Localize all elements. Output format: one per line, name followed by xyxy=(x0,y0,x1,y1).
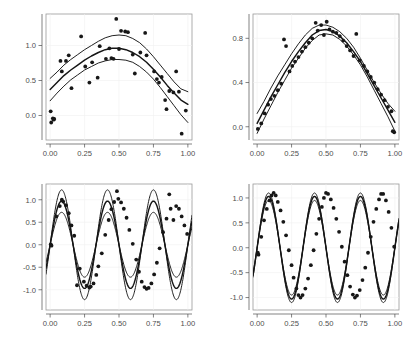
data-point xyxy=(317,217,321,221)
data-point xyxy=(322,33,326,37)
data-point xyxy=(372,81,376,85)
data-point xyxy=(67,211,71,215)
data-point xyxy=(345,44,349,48)
data-point xyxy=(268,199,272,203)
data-point xyxy=(284,233,288,237)
data-point xyxy=(358,288,362,292)
data-point xyxy=(265,207,269,211)
data-point xyxy=(147,286,151,290)
data-point xyxy=(64,203,68,207)
data-point xyxy=(392,130,396,134)
panel-top-right-y-tick-label: 0.8 xyxy=(232,34,243,43)
data-point xyxy=(126,30,130,34)
panel-top-right-svg: 0.000.250.500.751.000.00.40.8 xyxy=(207,2,415,170)
data-point xyxy=(96,76,100,80)
data-point xyxy=(145,53,149,57)
data-point xyxy=(263,112,267,116)
data-point xyxy=(374,207,378,211)
data-point xyxy=(67,53,71,57)
data-point xyxy=(309,263,313,267)
data-point xyxy=(172,91,176,95)
data-point xyxy=(369,75,373,79)
data-point xyxy=(61,200,65,204)
data-point xyxy=(279,209,283,213)
data-point xyxy=(282,38,286,42)
data-point xyxy=(274,194,278,198)
data-point xyxy=(167,192,171,196)
data-point xyxy=(355,294,359,298)
data-point xyxy=(331,30,335,34)
panel-top-left-y-tick-label: 1.0 xyxy=(25,41,36,50)
data-point xyxy=(288,70,292,74)
data-point xyxy=(259,235,263,239)
data-point xyxy=(303,287,307,291)
panel-bottom-right-x-tick-label: 0.50 xyxy=(319,319,334,328)
panel-top-left: 0.000.250.500.751.000.00.51.0 xyxy=(0,2,208,170)
data-point xyxy=(174,70,178,74)
data-point xyxy=(297,55,301,59)
panel-top-left-svg: 0.000.250.500.751.000.00.51.0 xyxy=(0,2,208,170)
data-point xyxy=(96,264,100,268)
panel-top-right-x-tick-label: 0.75 xyxy=(353,149,368,158)
data-point xyxy=(70,86,74,90)
data-point xyxy=(366,251,370,255)
panel-top-left-y-tick-label: 0.0 xyxy=(25,111,36,120)
data-point xyxy=(338,34,342,38)
data-point xyxy=(387,210,391,214)
data-point xyxy=(183,224,187,228)
data-point xyxy=(310,36,314,40)
data-point xyxy=(300,50,304,54)
data-point xyxy=(365,70,369,74)
data-point xyxy=(276,88,280,92)
data-point xyxy=(152,273,156,277)
data-point xyxy=(70,224,74,228)
data-point xyxy=(293,60,297,64)
data-point xyxy=(319,23,323,27)
data-point xyxy=(114,17,118,21)
data-point xyxy=(131,53,135,57)
panel-bottom-left-x-tick-label: 0.25 xyxy=(77,319,92,328)
data-point xyxy=(376,87,380,91)
data-point xyxy=(379,93,383,97)
data-point xyxy=(87,81,91,85)
data-point xyxy=(172,218,176,222)
data-point xyxy=(262,218,266,222)
data-point xyxy=(341,39,345,43)
panel-top-left-x-axis: 0.000.250.500.751.00 xyxy=(43,144,196,158)
panel-top-left-x-tick-label: 0.75 xyxy=(146,149,161,158)
data-point xyxy=(340,245,344,249)
data-point xyxy=(116,197,120,201)
data-point xyxy=(161,230,165,234)
data-point xyxy=(284,44,288,48)
data-point xyxy=(58,204,62,208)
data-point xyxy=(320,205,324,209)
panel-bottom-left-y-tick-label: -0.5 xyxy=(23,263,36,272)
data-point xyxy=(134,258,138,262)
data-point xyxy=(125,216,129,220)
panel-top-left-x-tick-label: 1.00 xyxy=(180,149,195,158)
data-point xyxy=(103,233,107,237)
panel-bottom-left-x-tick-label: 1.00 xyxy=(180,319,195,328)
data-point xyxy=(303,45,307,49)
data-point xyxy=(266,103,270,107)
panel-top-right-y-tick-label: 0.0 xyxy=(232,123,243,132)
data-point xyxy=(301,293,305,297)
data-point xyxy=(377,198,381,202)
data-point xyxy=(165,107,169,111)
panel-bottom-right-x-tick-label: 0.25 xyxy=(284,319,299,328)
panel-top-left-x-tick-label: 0.00 xyxy=(43,149,58,158)
data-point xyxy=(363,266,367,270)
panel-bottom-left-y-axis: -1.0-0.50.00.51.0 xyxy=(23,184,42,310)
data-point xyxy=(160,75,164,79)
panel-top-right-x-tick-label: 0.00 xyxy=(250,149,265,158)
data-point xyxy=(94,273,98,277)
data-point xyxy=(345,273,349,277)
data-point xyxy=(332,206,336,210)
data-point xyxy=(157,81,161,85)
panel-top-left-x-tick-label: 0.25 xyxy=(77,149,92,158)
data-point xyxy=(329,198,333,202)
data-point xyxy=(287,248,291,252)
data-point xyxy=(138,51,142,55)
data-point xyxy=(64,59,68,63)
panel-bottom-left-svg: 0.000.250.500.751.00-1.0-0.50.00.51.0 xyxy=(0,172,208,340)
